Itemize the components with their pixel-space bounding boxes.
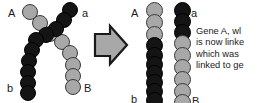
bead [20, 85, 36, 101]
caption-line-4: linked to ge [196, 60, 260, 71]
transformation-arrow [92, 23, 130, 68]
chromosomal-crossover-diagram: A B a b [0, 0, 260, 103]
label-A-top-left: A [8, 8, 15, 19]
caption-line-2: is now linke [196, 37, 260, 48]
bead [146, 92, 163, 103]
label-b-strand1-bottom: b [131, 94, 137, 103]
label-b-bottom-left: b [7, 83, 13, 94]
label-B-bottom-right: B [84, 83, 91, 94]
block-arrow-right-icon [92, 23, 130, 68]
explanation-text: Gene A, wl is now linke which was linked… [196, 26, 260, 72]
label-A-strand1-top: A [131, 8, 138, 19]
label-B-strand2-bottom: B [192, 96, 199, 103]
bead [65, 79, 81, 95]
caption-line-1: Gene A, wl [196, 26, 260, 37]
label-a-top-right: a [82, 8, 88, 19]
caption-line-3: which was [196, 49, 260, 60]
label-a-strand2-top: a [191, 8, 197, 19]
